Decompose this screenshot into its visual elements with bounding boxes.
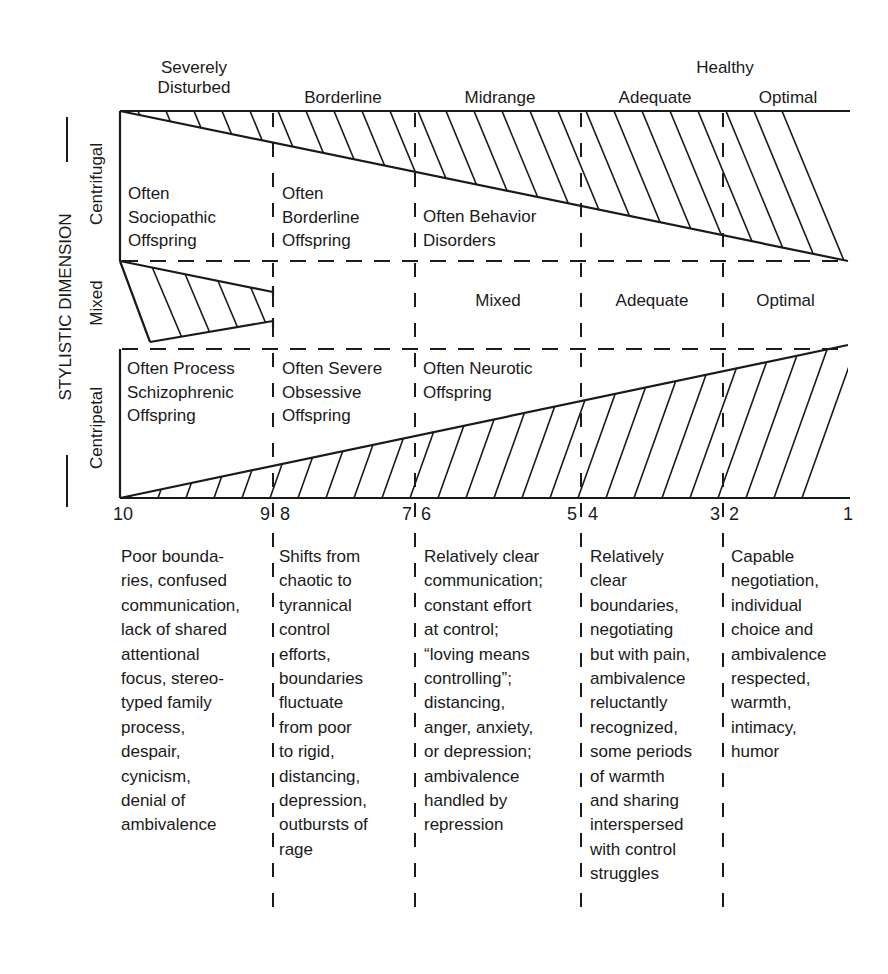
description-optimal: Capable negotiation, individual choice a… xyxy=(731,545,826,765)
row-label-centrifugal: Centrifugal xyxy=(87,124,109,244)
cell-adequate: Adequate xyxy=(581,291,723,311)
scale-tick-7: 7 xyxy=(402,504,412,524)
header-healthy: Healthy xyxy=(660,58,790,78)
description-borderline: Shifts from chaotic to tyrannical contro… xyxy=(279,545,368,862)
row-label-centripetal: Centripetal xyxy=(87,368,109,488)
cell-mixed: Mixed xyxy=(415,291,581,311)
scale-tick-3: 3 xyxy=(710,504,720,524)
scale-tick-10: 10 xyxy=(113,504,133,524)
description-severely-disturbed: Poor bounda- ries, confused communicatio… xyxy=(121,545,240,838)
header-adequate: Adequate xyxy=(590,88,720,108)
scale-tick-6: 6 xyxy=(421,504,431,524)
cell-obsessive-offspring: Often Severe Obsessive Offspring xyxy=(282,357,382,428)
cell-sociopathic-offspring: Often Sociopathic Offspring xyxy=(128,182,216,253)
header-borderline: Borderline xyxy=(278,88,408,108)
axis-title-stylistic-dimension: STYLISTIC DIMENSION xyxy=(56,199,78,415)
header-optimal: Optimal xyxy=(728,88,848,108)
cell-optimal: Optimal xyxy=(723,291,848,311)
description-adequate: Relatively clear boundaries, negotiating… xyxy=(590,545,692,887)
cell-borderline-offspring: Often Borderline Offspring xyxy=(282,182,360,253)
scale-tick-8: 8 xyxy=(280,504,290,524)
scale-tick-4: 4 xyxy=(588,504,598,524)
scale-tick-5: 5 xyxy=(567,504,577,524)
scale-tick-2: 2 xyxy=(729,504,739,524)
description-midrange: Relatively clear communication; constant… xyxy=(424,545,543,838)
cell-schizophrenic-offspring: Often Process Schizophrenic Offspring xyxy=(127,357,235,428)
cell-behavior-disorders: Often Behavior Disorders xyxy=(423,205,536,252)
row-label-mixed: Mixed xyxy=(87,263,109,343)
header-midrange: Midrange xyxy=(430,88,570,108)
cell-neurotic-offspring: Often Neurotic Offspring xyxy=(423,357,533,404)
scale-tick-9: 9 xyxy=(260,504,270,524)
scale-tick-1: 1 xyxy=(843,504,853,524)
header-severely-disturbed: Severely Disturbed xyxy=(130,58,258,98)
